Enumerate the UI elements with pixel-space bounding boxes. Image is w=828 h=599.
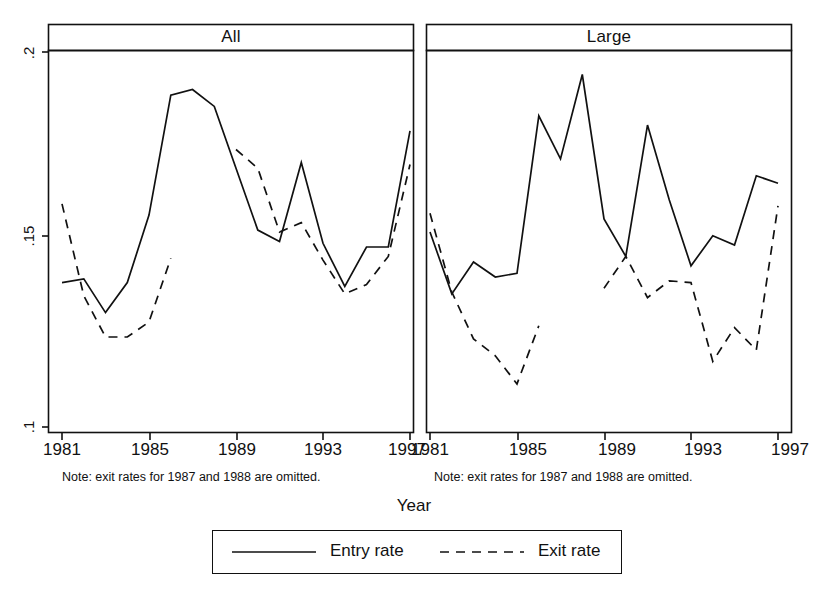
figure-canvas: All Large .2 .15 .1 1981 1985 1989 1993 … <box>0 0 828 599</box>
x-ticks-right <box>430 433 778 440</box>
series-line-all-entry <box>62 90 410 313</box>
panel-header-frame-right <box>427 25 792 51</box>
x-ticks-left <box>62 433 410 440</box>
panel-header-frame-left <box>49 25 414 51</box>
series-line-large-exit <box>430 206 778 384</box>
series-line-large-entry <box>430 75 778 294</box>
series-line-all-exit <box>62 150 410 338</box>
panel-plot-frame-right <box>427 51 792 433</box>
y-ticks-left <box>42 52 48 427</box>
plot-area <box>0 0 828 599</box>
panel-plot-frame-left <box>49 51 414 433</box>
